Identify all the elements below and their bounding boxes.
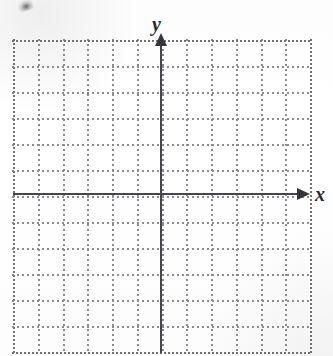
- grid-line-vertical: [63, 39, 65, 353]
- grid-line-vertical: [285, 39, 287, 353]
- grid-line-vertical: [13, 39, 15, 353]
- grid-line-vertical: [38, 39, 40, 353]
- grid-line-vertical: [261, 39, 263, 353]
- x-axis-arrow-icon: [297, 188, 310, 200]
- grid-line-vertical: [87, 39, 89, 353]
- x-axis-label: x: [315, 184, 325, 204]
- y-axis-label: y: [152, 14, 161, 34]
- grid-line-vertical: [112, 39, 114, 353]
- x-axis-line: [13, 193, 302, 195]
- figure-canvas: y x: [0, 0, 333, 356]
- grid-line-vertical: [236, 39, 238, 353]
- scan-smudge-artifact: [16, 0, 35, 13]
- grid-line-vertical: [310, 39, 312, 353]
- grid-line-vertical: [211, 39, 213, 353]
- grid-line-vertical: [137, 39, 139, 353]
- y-axis-line: [160, 45, 162, 353]
- grid-line-vertical: [186, 39, 188, 353]
